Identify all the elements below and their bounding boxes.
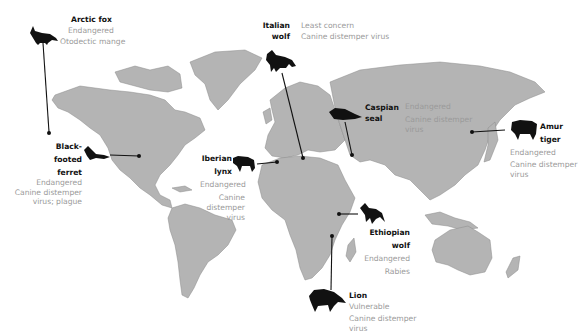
species-name: Lion	[349, 290, 416, 302]
species-label-italian-wolf-name: Italian wolf	[255, 20, 290, 42]
conservation-status: Endangered	[405, 102, 472, 112]
disease: Canine distemper	[510, 160, 577, 170]
conservation-status: Least concern	[301, 20, 389, 31]
species-label-amur-tiger-info: Endangered Canine distemper virus	[510, 148, 577, 180]
landmass-arctic-islands	[115, 66, 182, 92]
species-name-line: Amur	[540, 120, 563, 133]
species-name-line: footed	[10, 153, 82, 166]
disease: virus	[349, 324, 416, 334]
species-name-line: Ethiopian	[360, 226, 410, 239]
species-name-line: Italian	[255, 20, 290, 31]
species-name-line: seal	[365, 113, 399, 124]
conservation-status: Endangered	[4, 178, 82, 188]
disease: Canine distemper	[349, 314, 416, 324]
species-name-line: Iberian	[190, 152, 232, 165]
lynx-silhouette-icon	[233, 156, 255, 172]
disease: Canine distemper	[405, 115, 472, 125]
location-dot-lion	[330, 234, 334, 238]
tiger-silhouette-icon	[511, 120, 537, 140]
species-label-iberian-lynx-info: Endangered Canine distemper virus	[200, 180, 245, 223]
disease: virus; plague	[4, 197, 82, 207]
species-name-line: lynx	[190, 165, 232, 178]
disease: virus	[405, 125, 472, 135]
disease: Canine distemper virus	[301, 31, 389, 42]
species-label-caspian-seal-info: Endangered Canine distemper virus	[405, 102, 472, 135]
ferret-silhouette-icon	[84, 146, 110, 160]
conservation-status: Vulnerable	[349, 302, 416, 312]
location-dot-black-footed-ferret	[137, 154, 141, 158]
species-label-ethiopian-wolf: Ethiopian wolf Endangered Rabies	[360, 226, 410, 278]
conservation-status: Endangered	[360, 252, 410, 265]
landmass-caribbean	[172, 186, 192, 192]
species-name-line: Caspian	[365, 102, 399, 113]
disease: Canine	[200, 193, 245, 203]
location-dot-caspian-seal	[350, 153, 354, 157]
landmass-greenland	[190, 50, 262, 110]
conservation-status: Endangered	[200, 180, 245, 190]
disease: virus	[510, 170, 577, 180]
landmasses	[52, 50, 545, 298]
species-name-line: tiger	[540, 133, 563, 146]
landmass-africa	[258, 156, 355, 280]
species-label-caspian-seal-name: Caspian seal	[365, 102, 399, 124]
species-name-line: wolf	[360, 239, 410, 252]
leader-line-arctic-fox	[43, 43, 49, 132]
disease: Otodectic mange	[60, 36, 125, 47]
disease: Canine distemper	[4, 188, 82, 198]
location-dot-arctic-fox	[47, 131, 51, 135]
lion-silhouette-icon	[309, 289, 346, 312]
landmass-madagascar	[346, 238, 356, 262]
species-name-line: Black-	[10, 140, 82, 153]
disease: Rabies	[360, 265, 410, 278]
disease: distemper	[200, 203, 245, 213]
landmass-uk	[263, 108, 272, 124]
location-dot-iberian-lynx	[275, 160, 279, 164]
fox-silhouette-icon	[30, 26, 58, 45]
species-label-lion: Lion Vulnerable Canine distemper virus	[349, 290, 416, 334]
species-label-black-footed-ferret-info: Endangered Canine distemper virus; plagu…	[4, 178, 82, 207]
species-label-iberian-lynx-name: Iberian lynx	[190, 152, 232, 178]
landmass-australia	[432, 226, 492, 275]
disease: virus	[200, 213, 245, 223]
landmass-new-zealand	[506, 256, 520, 278]
species-label-amur-tiger-name: Amur tiger	[540, 120, 563, 146]
species-label-italian-wolf-info: Least concern Canine distemper virus	[301, 20, 389, 42]
conservation-status: Endangered	[510, 148, 577, 158]
location-dot-ethiopian-wolf	[337, 212, 341, 216]
species-name: Arctic fox	[68, 14, 125, 25]
location-dot-italian-wolf	[301, 156, 305, 160]
species-name-line: wolf	[255, 31, 290, 42]
wolf-silhouette-icon	[360, 203, 385, 224]
species-label-black-footed-ferret-name: Black- footed ferret	[10, 140, 82, 179]
wolf-silhouette-icon	[266, 50, 296, 72]
conservation-status: Endangered	[68, 25, 125, 36]
species-label-arctic-fox: Arctic fox Endangered Otodectic mange	[68, 14, 125, 47]
